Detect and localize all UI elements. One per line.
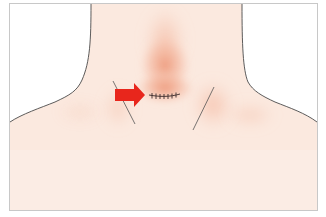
neck-illustration — [0, 0, 326, 217]
illustration-svg — [0, 0, 326, 217]
